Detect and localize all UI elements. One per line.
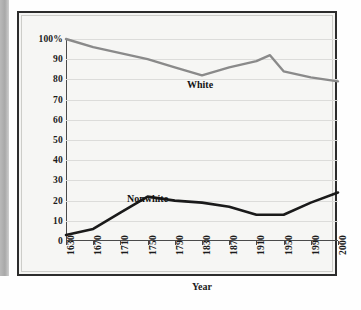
- y-axis-tick-label: 0: [58, 236, 63, 246]
- x-axis-tick-label: 1910: [256, 235, 266, 255]
- x-axis-tick-label: 1790: [175, 235, 185, 255]
- x-axis-title: Year: [66, 281, 338, 292]
- x-axis-tick-labels: 1630167017101750179018301870191019501990…: [66, 245, 338, 281]
- y-axis-tick-label: 20: [53, 196, 63, 206]
- x-axis-tick-label: 1630: [66, 235, 76, 255]
- x-axis-tick-label: 1750: [148, 235, 158, 255]
- x-axis-tick-label: 1950: [284, 235, 294, 255]
- x-axis-tick-label: 1830: [202, 235, 212, 255]
- y-axis-tick-label: 30: [53, 175, 63, 185]
- plot-area: [66, 39, 338, 241]
- y-axis-tick-label: 70: [53, 95, 63, 105]
- y-axis-tick-label: 100%: [38, 34, 63, 44]
- figure-frame: 0102030405060708090100% 1630167017101750…: [17, 11, 337, 276]
- series-lines: [66, 39, 338, 241]
- page-margin-strip: [0, 0, 9, 276]
- y-axis-tick-label: 80: [53, 74, 63, 84]
- x-axis-tick-label: 1670: [93, 235, 103, 255]
- y-axis-tick-label: 50: [53, 135, 63, 145]
- x-axis-tick-label: 2000: [338, 235, 348, 255]
- series-line-white: [66, 39, 338, 81]
- series-line-nonwhite: [66, 193, 338, 235]
- y-axis-tick-label: 40: [53, 155, 63, 165]
- series-label-white: White: [187, 79, 213, 90]
- page-canvas: 0102030405060708090100% 1630167017101750…: [0, 0, 361, 310]
- y-axis-tick-label: 10: [53, 216, 63, 226]
- y-axis-tick-label: 60: [53, 115, 63, 125]
- x-axis-tick-label: 1710: [120, 235, 130, 255]
- series-label-nonwhite: Nonwhite: [127, 193, 168, 204]
- y-axis-tick-labels: 0102030405060708090100%: [19, 39, 63, 241]
- y-axis-tick-label: 90: [53, 54, 63, 64]
- x-axis-tick-label: 1870: [229, 235, 239, 255]
- x-axis-tick-label: 1990: [311, 235, 321, 255]
